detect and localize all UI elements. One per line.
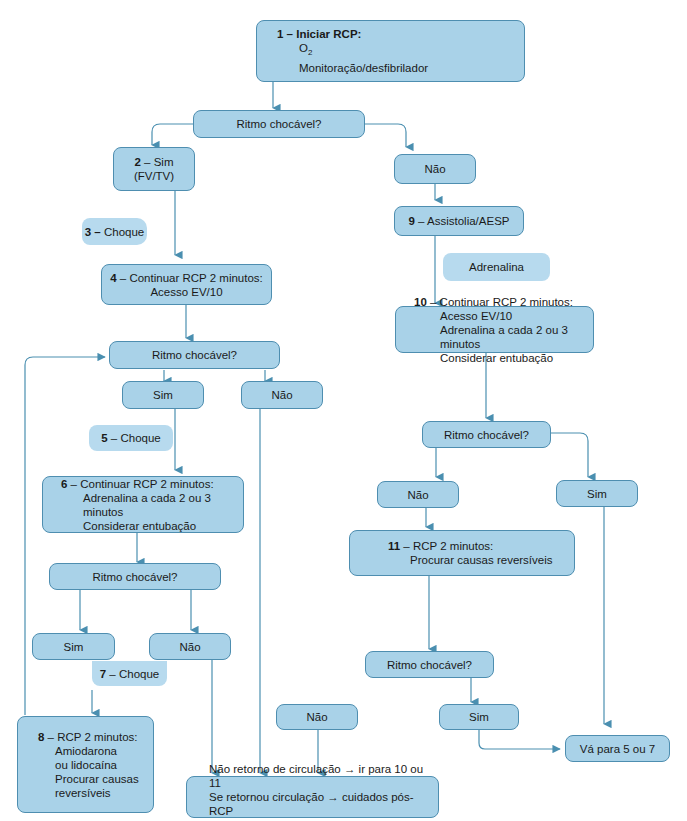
step-1-title: Iniciar RCP: xyxy=(296,28,361,40)
step-8-cpr-antiarrhythmic: 8 – RCP 2 minutos: Amiodarona ou lidocaí… xyxy=(17,716,154,813)
no-branch-3: Não xyxy=(149,633,231,660)
step-1-start-cpr: 1 – Iniciar RCP: O2 Monitoração/desfibri… xyxy=(256,20,525,82)
no-branch-1: Não xyxy=(394,154,476,184)
no-branch-2: Não xyxy=(241,381,323,409)
yes-branch-4: Sim xyxy=(556,480,638,507)
step-2-yes-vf-vt: 2 – Sim (FV/TV) xyxy=(113,147,195,191)
decision-shockable-4: Ritmo chocável? xyxy=(422,421,551,448)
go-to-5-or-7: Vá para 5 ou 7 xyxy=(565,735,670,762)
step-11-cpr-reversible-causes: 11 – RCP 2 minutos: Procurar causas reve… xyxy=(349,530,575,576)
no-branch-4: Não xyxy=(377,481,459,508)
oxygen-text: O2 xyxy=(277,41,428,60)
monitoring-text: Monitoração/desfibrilador xyxy=(277,61,428,75)
step-5-shock: 5 – Choque xyxy=(89,425,173,451)
no-branch-5: Não xyxy=(276,704,358,730)
step-6-continue-cpr: 6 – Continuar RCP 2 minutos: Adrenalina … xyxy=(42,476,244,533)
step-4-continue-cpr: 4 – Continuar RCP 2 minutos: Acesso EV/1… xyxy=(101,264,272,305)
decision-shockable-1: Ritmo chocável? xyxy=(193,110,365,138)
decision-shockable-5: Ritmo chocável? xyxy=(365,651,494,678)
step-10-continue-cpr: 10 – Continuar RCP 2 minutos: Acesso EV/… xyxy=(395,306,594,353)
yes-branch-5: Sim xyxy=(439,704,519,730)
final-outcome: Não retorno de circulação → ir para 10 o… xyxy=(186,776,439,818)
step-7-shock: 7 – Choque xyxy=(92,661,167,686)
decision-shockable-2: Ritmo chocável? xyxy=(109,341,280,369)
adrenaline-label: Adrenalina xyxy=(443,253,550,281)
decision-shockable-3: Ritmo chocável? xyxy=(49,563,221,590)
step-3-shock: 3 – Choque xyxy=(82,218,147,245)
step-9-asystole-pea: 9 – Assistolia/AESP xyxy=(394,206,524,236)
yes-branch-3: Sim xyxy=(32,633,115,660)
yes-branch-2: Sim xyxy=(122,381,204,409)
